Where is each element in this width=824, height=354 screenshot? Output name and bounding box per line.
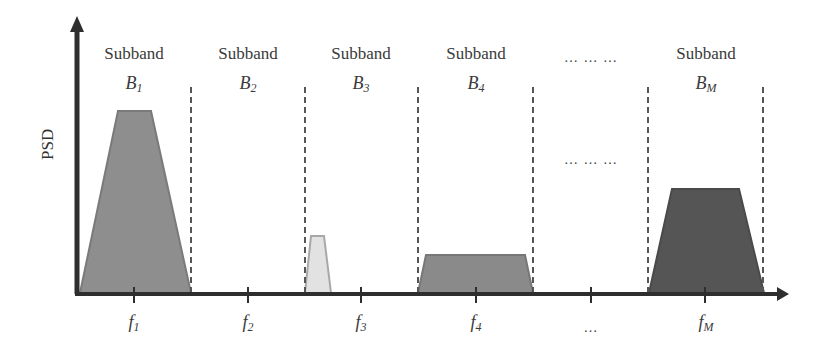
subband-title-b4: Subband	[446, 44, 506, 64]
freq-ellipsis: …	[584, 320, 599, 336]
ellipsis-top: … … …	[564, 50, 618, 66]
subband-title-b3: Subband	[331, 44, 391, 64]
freq-label-fm: fM	[698, 312, 713, 335]
ellipsis-middle: … … …	[564, 152, 618, 168]
freq-label-f1: f1	[128, 312, 139, 335]
freq-label-f3: f3	[355, 312, 366, 335]
subband-symbol-b1: B1	[126, 73, 143, 96]
y-axis-label: PSD	[38, 129, 58, 160]
subband-symbol-bm: BM	[696, 73, 717, 96]
subband-title-bm: Subband	[676, 44, 736, 64]
subband-title-b2: Subband	[218, 44, 278, 64]
subband-symbol-b4: B4	[468, 73, 485, 96]
x-axis-arrow-icon	[777, 287, 789, 301]
y-axis	[70, 16, 84, 294]
freq-label-f4: f4	[470, 312, 481, 335]
y-axis-arrow-icon	[70, 16, 84, 32]
psd-shape-b1	[80, 111, 191, 293]
subband-title-b1: Subband	[104, 44, 164, 64]
psd-subband-diagram: PSD Subband Subband Subband Subband Subb…	[0, 0, 824, 354]
psd-shape-bm	[649, 189, 764, 293]
subband-symbol-b3: B3	[353, 73, 370, 96]
subband-symbol-b2: B2	[240, 73, 257, 96]
freq-label-f2: f2	[242, 312, 253, 335]
psd-shape-b3	[305, 236, 331, 293]
